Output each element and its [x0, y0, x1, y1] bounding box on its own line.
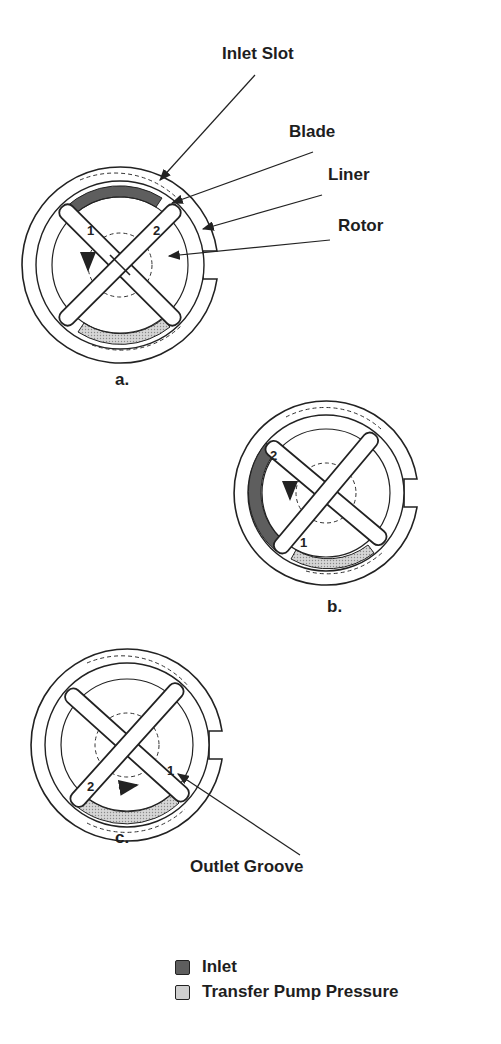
transfer-pressure-swatch-icon [175, 985, 190, 1000]
inlet-swatch-icon [175, 960, 190, 975]
legend-item-inlet: Inlet [175, 957, 237, 977]
legend-label: Inlet [202, 957, 237, 977]
inlet-slot-leader [160, 75, 255, 180]
svg-text:1: 1 [167, 763, 174, 778]
caption-b: b. [327, 597, 342, 617]
legend-item-transfer-pump-pressure: Transfer Pump Pressure [175, 982, 399, 1002]
svg-text:1: 1 [300, 535, 307, 550]
label-blade: Blade [289, 122, 335, 142]
label-liner: Liner [328, 165, 370, 185]
vane-pump-diagram: 1 2 2 1 [0, 0, 501, 1044]
diagram-c: 2 1 [31, 649, 222, 841]
svg-text:2: 2 [87, 779, 94, 794]
svg-text:1: 1 [87, 223, 94, 238]
diagram-a: 1 2 [22, 167, 217, 363]
outlet-groove-leader [178, 774, 300, 855]
caption-a: a. [115, 370, 129, 390]
diagram-b: 2 1 [234, 401, 417, 585]
label-outlet-groove: Outlet Groove [190, 857, 303, 877]
label-inlet-slot: Inlet Slot [222, 44, 294, 64]
liner-leader [203, 195, 322, 229]
svg-text:2: 2 [153, 223, 160, 238]
label-rotor: Rotor [338, 216, 383, 236]
caption-c: c. [115, 828, 129, 848]
svg-text:2: 2 [270, 448, 277, 463]
legend-label: Transfer Pump Pressure [202, 982, 399, 1002]
blade-leader [172, 152, 313, 203]
